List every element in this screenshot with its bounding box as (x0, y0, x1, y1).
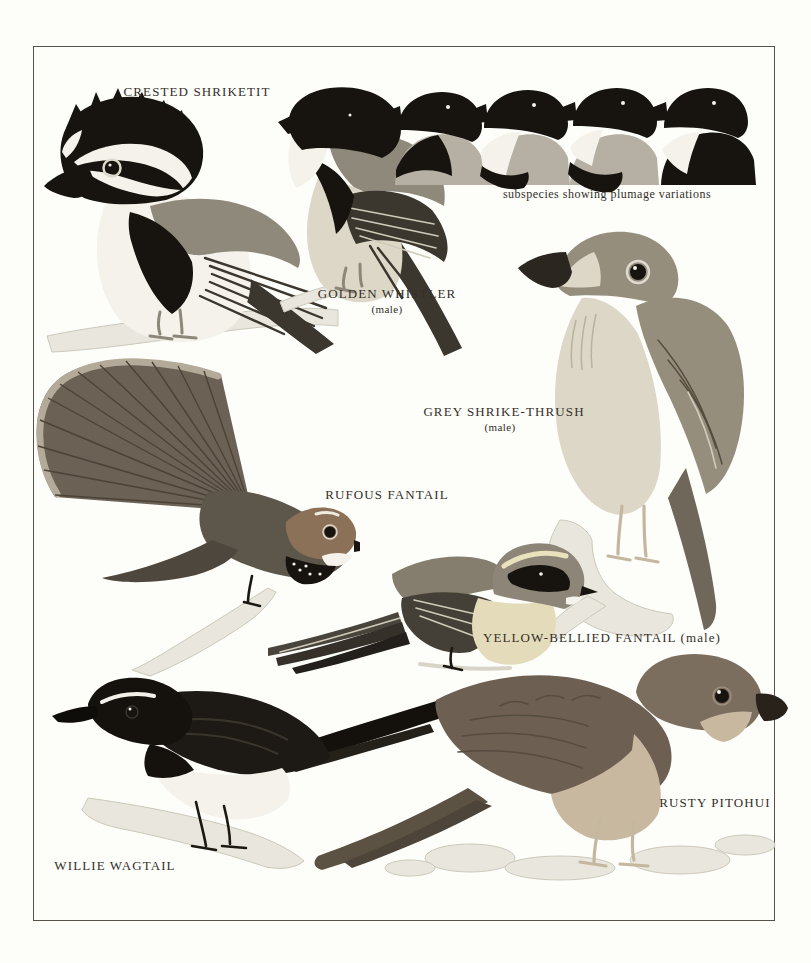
label-crested-shriketit: CRESTED SHRIKETIT (124, 84, 271, 100)
label-grey-shrike-thrush-sex: (male) (484, 421, 515, 433)
eye (346, 112, 358, 124)
label-rufous-fantail: RUFOUS FANTAIL (325, 487, 449, 503)
eye (630, 264, 646, 280)
label-rusty-pitohui: RUSTY PITOHUI (659, 795, 770, 811)
bill (580, 586, 598, 596)
eye (715, 689, 729, 703)
head (88, 678, 192, 745)
label-willie-wagtail: WILLIE WAGTAIL (54, 858, 175, 874)
label-golden-whistler: GOLDEN WHISTLER (318, 286, 457, 302)
eye (127, 707, 137, 717)
eye (106, 162, 119, 175)
wing (102, 540, 238, 582)
bill (518, 252, 572, 288)
branch (132, 588, 276, 676)
legs (608, 506, 658, 562)
label-golden-whistler-sex: (male) (371, 303, 402, 315)
eye (536, 570, 552, 586)
golden-whistler-subspecies-heads-illustration (390, 85, 775, 195)
bill (44, 166, 94, 198)
lichen-ground (385, 835, 775, 880)
label-yellow-bellied-fantail: YELLOW-BELLIED FANTAIL (male) (483, 630, 721, 646)
subspecies-head-1 (390, 92, 484, 185)
plate-page: CRESTED SHRIKETIT GOLDEN WHISTLER (male)… (0, 0, 811, 963)
label-grey-shrike-thrush: GREY SHRIKE-THRUSH (423, 404, 584, 420)
label-subspecies-note: subspecies showing plumage variations (503, 187, 711, 202)
bill (52, 706, 98, 723)
bill (756, 694, 788, 721)
chin (566, 597, 582, 605)
rusty-pitohui-illustration (295, 648, 790, 885)
